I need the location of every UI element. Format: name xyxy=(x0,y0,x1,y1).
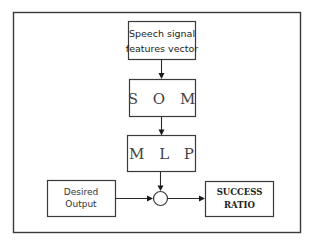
flow-diagram: Speech signal features vector S O M M L … xyxy=(0,0,309,244)
success-ratio-node: SUCCESS RATIO xyxy=(206,182,274,217)
input-features-node: Speech signal features vector xyxy=(126,22,198,60)
mlp-label: M L P xyxy=(129,145,199,163)
som-label: S O M xyxy=(128,90,200,108)
success-line2: RATIO xyxy=(224,200,255,210)
arrow-comparator-to-success xyxy=(168,196,206,202)
desired-output-node: Desired Output xyxy=(48,181,116,217)
arrow-som-to-mlp xyxy=(159,117,165,136)
mlp-node: M L P xyxy=(128,136,199,172)
som-node: S O M xyxy=(128,80,200,117)
arrow-desired-to-comparator xyxy=(116,196,154,202)
input-line1: Speech signal xyxy=(129,28,195,39)
desired-line2: Output xyxy=(65,199,97,209)
arrow-input-to-som xyxy=(159,60,165,80)
comparator-node xyxy=(154,192,168,206)
success-line1: SUCCESS xyxy=(217,187,263,197)
arrow-mlp-to-comparator xyxy=(158,172,164,192)
desired-line1: Desired xyxy=(64,187,98,197)
input-line2: features vector xyxy=(126,43,198,54)
